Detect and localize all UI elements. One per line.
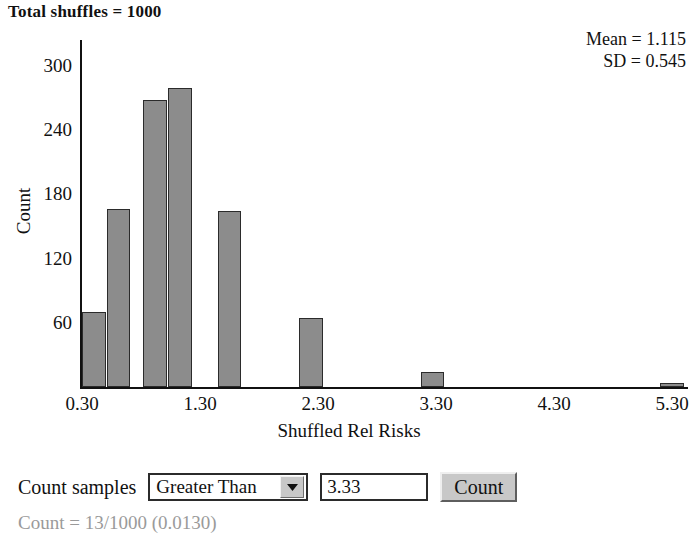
x-axis-line (80, 387, 688, 389)
x-tick-label: 1.30 (183, 394, 216, 414)
histogram-bar (143, 100, 167, 387)
count-button[interactable]: Count (440, 472, 517, 502)
histogram-bar (299, 318, 323, 387)
x-tick-label: 5.30 (655, 394, 688, 414)
histogram-bar (660, 383, 684, 387)
y-tick-text: 300 (0, 56, 72, 75)
condition-dropdown-value: Greater Than (156, 476, 280, 498)
count-result-text: Count = 13/1000 (0.0130) (18, 512, 217, 534)
histogram-bar (168, 88, 192, 387)
histogram-bar (82, 312, 106, 387)
histogram-bar (218, 211, 242, 387)
count-controls: Count samples Greater Than Count (18, 472, 517, 502)
y-tick-text: 60 (0, 313, 72, 332)
count-samples-label: Count samples (18, 476, 136, 499)
histogram-chart: 60120180240300 0.301.302.303.304.305.30 … (0, 0, 698, 430)
condition-dropdown[interactable]: Greater Than (148, 473, 308, 501)
x-tick-label: 3.30 (419, 394, 452, 414)
histogram-bar (421, 372, 445, 387)
x-axis-title: Shuffled Rel Risks (0, 420, 698, 442)
y-tick-text: 240 (0, 120, 72, 139)
x-tick-label: 2.30 (301, 394, 334, 414)
histogram-applet-window: Total shuffles = 1000 Mean = 1.115 SD = … (0, 0, 698, 547)
x-tick-label: 0.30 (65, 394, 98, 414)
y-tick-text: 180 (0, 184, 72, 203)
x-tick-label: 4.30 (537, 394, 570, 414)
threshold-input[interactable] (320, 473, 428, 501)
y-tick-text: 120 (0, 249, 72, 268)
chevron-down-icon[interactable] (280, 476, 304, 498)
histogram-bar (107, 209, 131, 387)
y-axis-title: Count (13, 171, 35, 251)
